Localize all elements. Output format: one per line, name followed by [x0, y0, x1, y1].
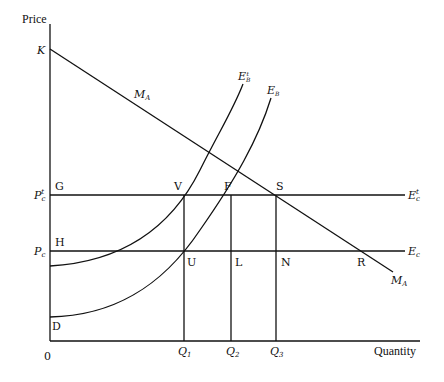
point-f: F	[224, 180, 232, 193]
economics-diagram: Price Quantity 0 K Pct Pc G H D V F S U …	[0, 0, 444, 382]
point-n: N	[281, 256, 291, 269]
k-label: K	[36, 44, 46, 57]
q1-label: Q1	[178, 345, 192, 359]
ma-label-bottom: MA	[390, 274, 407, 288]
q2-label: Q2	[226, 345, 240, 359]
point-s: S	[276, 180, 284, 193]
point-h: H	[55, 236, 65, 249]
eb-label: EB	[266, 84, 280, 97]
point-v: V	[173, 180, 183, 193]
ec-label: Ec	[407, 245, 420, 259]
point-g: G	[55, 180, 64, 193]
ma-label-top: MA	[133, 88, 150, 102]
origin-label: 0	[44, 350, 51, 363]
eb-prime-label: EBt	[237, 70, 251, 83]
pc-label: Pc	[33, 245, 45, 259]
y-axis-label: Price	[22, 12, 47, 26]
pc-prime-label: Pct	[33, 188, 45, 203]
q3-label: Q3	[270, 345, 284, 359]
ma-curve	[50, 49, 393, 272]
eb-curve	[50, 98, 271, 317]
ec-prime-label: Ect	[407, 188, 420, 203]
point-r: R	[357, 256, 366, 269]
point-l: L	[235, 256, 243, 269]
point-u: U	[187, 256, 196, 269]
x-axis-label: Quantity	[374, 344, 416, 358]
point-d: D	[52, 320, 61, 333]
